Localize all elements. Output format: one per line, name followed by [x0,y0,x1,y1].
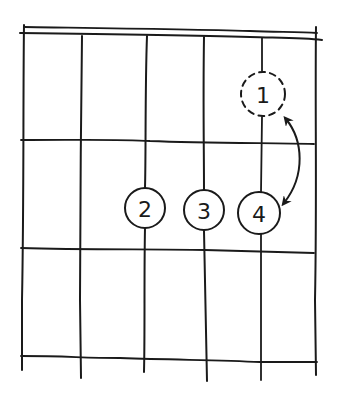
finger-2-label: 2 [138,197,152,222]
strings [22,25,316,381]
nut [20,27,322,40]
string-5-low [80,36,82,378]
string-4 [145,36,147,188]
string-6 [22,25,24,370]
string-1 [315,27,316,375]
string-3-lower [204,231,207,381]
frets [21,140,317,362]
finger-1-dashed: 1 [241,72,285,116]
finger-2: 2 [125,188,165,228]
finger-3-label: 3 [197,199,211,224]
string-2-mid [261,117,262,192]
double-arrow-icon [284,119,300,203]
fret-1 [21,140,314,144]
finger-4: 4 [238,192,280,234]
finger-3: 3 [184,190,224,230]
chord-diagram: 1 2 3 4 [0,0,343,394]
fret-3 [21,356,317,362]
finger-4-label: 4 [252,202,266,227]
fret-2 [21,248,314,253]
finger-1-label: 1 [256,83,270,108]
